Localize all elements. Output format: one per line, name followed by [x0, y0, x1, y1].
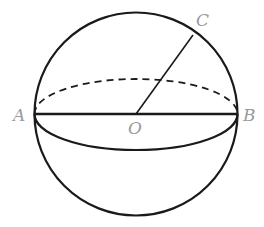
label-c: C	[196, 10, 209, 30]
equator-back-arc	[35, 79, 238, 114]
label-b: B	[242, 105, 256, 125]
radius-oc	[136, 35, 193, 114]
sphere-diagram: A B O C	[0, 0, 264, 227]
label-a: A	[11, 105, 25, 125]
diagram-canvas: A B O C	[0, 0, 264, 227]
label-o: O	[128, 118, 142, 138]
